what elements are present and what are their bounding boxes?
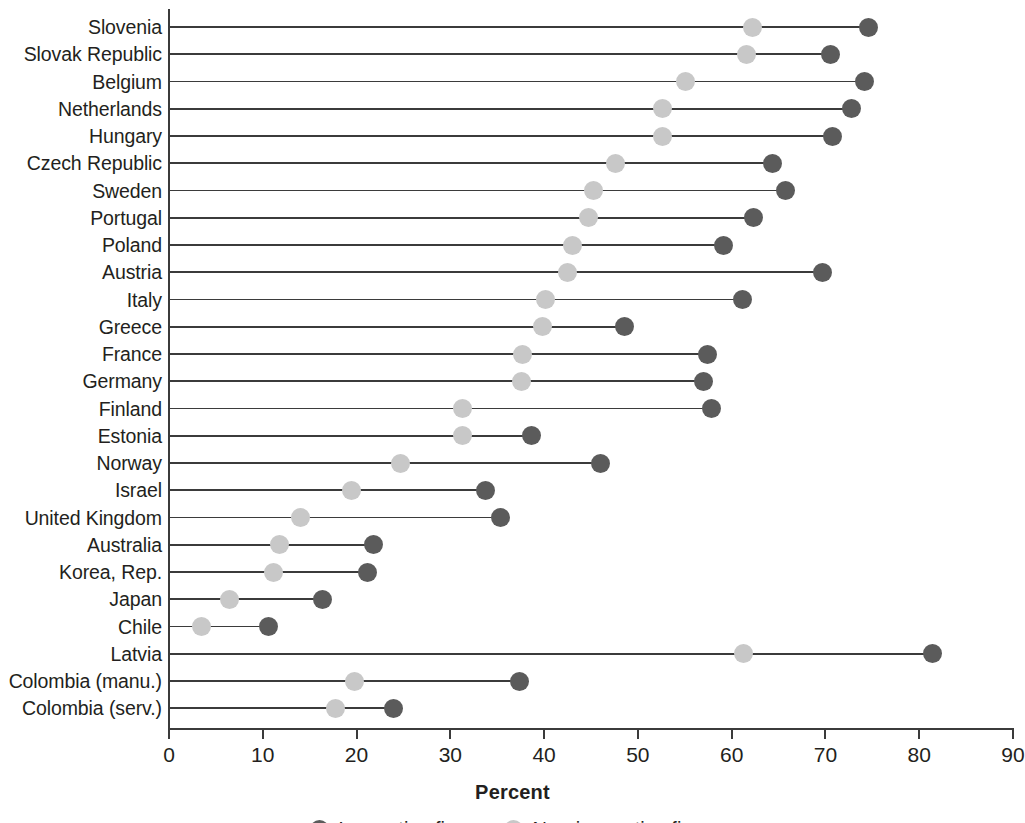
- dumbbell-chart: SloveniaSlovak RepublicBelgiumNetherland…: [0, 0, 1025, 823]
- data-point-non-innovative: [513, 345, 532, 364]
- x-axis-tick: [918, 730, 920, 739]
- data-point-non-innovative: [345, 672, 364, 691]
- category-label-row: Sweden: [0, 180, 162, 202]
- x-axis-title: Percent: [0, 781, 1025, 804]
- data-point-innovative: [476, 481, 495, 500]
- category-label-row: Portugal: [0, 207, 162, 229]
- data-point-non-innovative: [563, 236, 582, 255]
- data-point-non-innovative: [453, 399, 472, 418]
- chart-legend: Innovative firmsNon-innovative firms: [0, 819, 1025, 823]
- data-point-innovative: [855, 72, 874, 91]
- data-point-innovative: [615, 317, 634, 336]
- category-label: Poland: [102, 236, 162, 256]
- data-point-innovative: [842, 99, 861, 118]
- connector-line: [169, 190, 785, 192]
- connector-line: [169, 81, 865, 83]
- data-point-non-innovative: [606, 154, 625, 173]
- category-label: Estonia: [98, 427, 162, 447]
- connector-line: [169, 217, 753, 219]
- plot-area: SloveniaSlovak RepublicBelgiumNetherland…: [0, 0, 1025, 823]
- connector-line: [169, 408, 712, 410]
- data-point-innovative: [358, 563, 377, 582]
- category-label-row: Estonia: [0, 425, 162, 447]
- category-label-row: Hungary: [0, 125, 162, 147]
- data-point-innovative: [364, 535, 383, 554]
- connector-line: [169, 53, 830, 55]
- x-axis-tick: [824, 730, 826, 739]
- category-label: Italy: [127, 291, 162, 311]
- data-point-innovative: [823, 127, 842, 146]
- connector-line: [169, 108, 852, 110]
- category-label-row: Germany: [0, 370, 162, 392]
- data-point-non-innovative: [453, 426, 472, 445]
- data-point-innovative: [923, 644, 942, 663]
- category-label: Chile: [118, 618, 162, 638]
- legend-label: Non-innovative firms: [532, 819, 714, 823]
- data-point-non-innovative: [743, 18, 762, 37]
- category-label: Germany: [83, 372, 163, 392]
- category-label-row: Netherlands: [0, 98, 162, 120]
- connector-line: [169, 462, 600, 464]
- data-point-non-innovative: [533, 317, 552, 336]
- category-label: Slovak Republic: [24, 45, 162, 65]
- data-point-innovative: [859, 18, 878, 37]
- x-axis-tick: [449, 730, 451, 739]
- category-label: Japan: [109, 590, 162, 610]
- category-label: Hungary: [89, 127, 162, 147]
- category-label-row: Korea, Rep.: [0, 561, 162, 583]
- data-point-non-innovative: [192, 617, 211, 636]
- data-point-non-innovative: [291, 508, 310, 527]
- legend-item[interactable]: Non-innovative firms: [504, 819, 714, 823]
- x-axis-tick-label: 10: [251, 744, 274, 765]
- data-point-non-innovative: [326, 699, 345, 718]
- category-label-row: Colombia (serv.): [0, 697, 162, 719]
- data-point-innovative: [522, 426, 541, 445]
- data-point-non-innovative: [676, 72, 695, 91]
- data-point-non-innovative: [270, 535, 289, 554]
- legend-item[interactable]: Innovative firms: [310, 819, 478, 823]
- connector-line: [169, 353, 707, 355]
- category-label-row: Australia: [0, 534, 162, 556]
- data-point-non-innovative: [734, 644, 753, 663]
- x-axis-tick-label: 30: [439, 744, 462, 765]
- category-label: Korea, Rep.: [59, 563, 162, 583]
- connector-line: [169, 26, 869, 28]
- data-point-non-innovative: [391, 454, 410, 473]
- x-axis-tick: [543, 730, 545, 739]
- data-point-innovative: [259, 617, 278, 636]
- category-label: Latvia: [111, 645, 162, 665]
- category-label-row: Poland: [0, 234, 162, 256]
- category-label-row: Slovak Republic: [0, 43, 162, 65]
- category-label-row: Norway: [0, 452, 162, 474]
- category-label-row: Italy: [0, 289, 162, 311]
- category-label-row: France: [0, 343, 162, 365]
- x-axis-tick: [168, 730, 170, 739]
- category-label-row: Israel: [0, 479, 162, 501]
- category-label: Greece: [99, 318, 162, 338]
- x-axis-tick-label: 0: [163, 744, 175, 765]
- category-label-row: Greece: [0, 316, 162, 338]
- category-label: Czech Republic: [27, 154, 162, 174]
- x-axis-tick-label: 20: [345, 744, 368, 765]
- data-point-innovative: [491, 508, 510, 527]
- data-point-innovative: [821, 45, 840, 64]
- category-label: Israel: [115, 481, 162, 501]
- category-label: Slovenia: [88, 18, 162, 38]
- data-point-innovative: [714, 236, 733, 255]
- x-axis-tick-label: 70: [814, 744, 837, 765]
- category-label: Colombia (manu.): [9, 672, 162, 692]
- data-point-non-innovative: [579, 208, 598, 227]
- category-label-row: Finland: [0, 398, 162, 420]
- category-label-row: Czech Republic: [0, 152, 162, 174]
- category-label: United Kingdom: [25, 509, 162, 529]
- connector-line: [169, 380, 704, 382]
- x-axis-tick-label: 80: [908, 744, 931, 765]
- category-label: Sweden: [92, 182, 162, 202]
- category-label: Finland: [99, 400, 162, 420]
- data-point-innovative: [813, 263, 832, 282]
- category-label-row: Latvia: [0, 643, 162, 665]
- data-point-innovative: [591, 454, 610, 473]
- data-point-non-innovative: [653, 127, 672, 146]
- data-point-non-innovative: [536, 290, 555, 309]
- data-point-innovative: [694, 372, 713, 391]
